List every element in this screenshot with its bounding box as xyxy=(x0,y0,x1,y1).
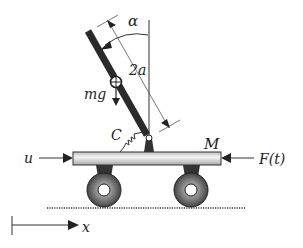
weight-arrowhead xyxy=(112,98,120,106)
damper-spring xyxy=(120,131,145,152)
cart-body xyxy=(73,152,221,165)
cart-mass-label: M xyxy=(203,135,220,153)
angle-label: α xyxy=(128,12,138,30)
length-arrowhead-top xyxy=(107,20,116,28)
center-of-mass-icon xyxy=(111,77,122,88)
length-label: 2a xyxy=(128,62,146,78)
disturbance-arrowhead xyxy=(221,153,231,163)
wheel-right xyxy=(174,173,208,207)
x-axis-arrowhead xyxy=(68,220,79,230)
control-input-label: u xyxy=(24,150,33,166)
wheel-left xyxy=(87,173,121,207)
length-arrowhead-bottom xyxy=(161,119,170,128)
angle-arc xyxy=(105,34,148,45)
length-extension-bottom xyxy=(159,120,180,132)
disturbance-label: F(t) xyxy=(258,151,285,167)
position-axis-label: x xyxy=(82,219,90,235)
weight-label: mg xyxy=(84,86,106,102)
pivot-joint xyxy=(146,135,152,141)
control-input-arrowhead xyxy=(63,153,73,163)
damper-label: C xyxy=(111,127,122,143)
inverted-pendulum-diagram: α 2a mg C M u F(t) x xyxy=(0,0,303,248)
